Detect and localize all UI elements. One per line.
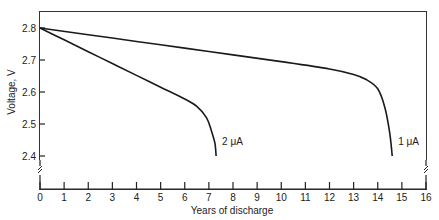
x-tick-label: 7 [206,192,212,203]
x-tick-label: 8 [230,192,236,203]
x-tick-label: 14 [372,192,384,203]
x-tick-label: 11 [300,192,311,203]
series-label-1ua: 1 μA [398,136,419,147]
y-tick-label: 2.5 [22,119,36,130]
y-tick-label: 2.6 [22,87,36,98]
curve-2ua [40,28,216,156]
x-tick-label: 3 [110,192,116,203]
x-tick-label: 4 [134,192,140,203]
x-tick-label: 0 [37,192,43,203]
x-tick-label: 13 [348,192,360,203]
x-tick-label: 15 [396,192,408,203]
y-axis-ticks: 2.42.52.62.72.8 [22,23,45,162]
y-tick-label: 2.8 [22,23,36,34]
x-tick-label: 9 [254,192,260,203]
x-tick-label: 2 [85,192,91,203]
x-tick-label: 1 [61,192,67,203]
curves [40,28,392,156]
series-label-2ua: 2 μA [222,136,243,147]
x-tick-label: 6 [182,192,188,203]
plot-frame [40,12,427,190]
x-axis-ticks: 012345678910111213141516 [37,182,432,203]
x-tick-label: 16 [420,192,432,203]
y-tick-label: 2.4 [22,151,36,162]
x-tick-label: 10 [276,192,288,203]
curve-1ua [40,28,392,156]
y-tick-label: 2.7 [22,55,36,66]
y-axis-label: Voltage, V [6,69,17,115]
x-tick-label: 12 [324,192,336,203]
discharge-chart: 2.42.52.62.72.80123456789101112131415161… [0,0,439,220]
x-tick-label: 5 [158,192,164,203]
x-axis-label: Years of discharge [191,205,274,216]
